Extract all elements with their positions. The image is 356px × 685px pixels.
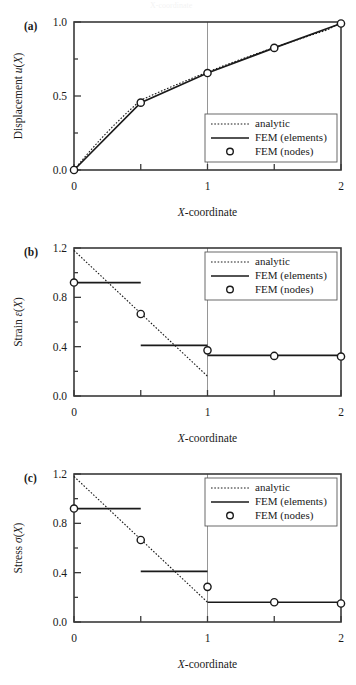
legend-label-elements: FEM (elements) [255,495,327,508]
y-tick-label: 1.2 [53,468,68,480]
legend: analyticFEM (elements)FEM (nodes) [205,252,337,300]
node-marker [70,166,77,173]
y-axis-title-prefix: Strain [12,316,24,346]
panel-tag: (c) [24,472,37,485]
y-axis-title-close: ) [12,297,25,301]
legend: analyticFEM (elements)FEM (nodes) [205,114,337,162]
legend-label-elements: FEM (elements) [255,131,327,144]
node-marker [204,347,211,354]
panel-a-plot: 0120.00.51.0(a)Displacement u(X)X-coordi… [0,0,356,225]
x-tick-label: 2 [338,632,344,644]
x-tick-label: 2 [338,180,344,192]
panel-tag: (b) [24,246,38,259]
y-axis-title-prefix: Displacement [12,73,25,139]
y-axis-title: Strain ε(X) [12,297,25,347]
y-axis-title-text: Displacement u(X) [12,53,25,140]
panel-b-strain: 0120.00.40.81.2(b)Strain ε(X)X-coordinat… [0,226,356,451]
x-axis-title: X-coordinate [177,432,237,444]
node-marker [137,536,144,543]
x-tick-label: 0 [71,632,77,644]
node-marker [271,599,278,606]
legend-label-nodes: FEM (nodes) [255,145,314,158]
node-marker [337,353,344,360]
legend-label-nodes: FEM (nodes) [255,509,314,522]
y-axis-title: Displacement u(X) [12,53,25,140]
y-tick-label: 0.0 [53,616,68,628]
y-axis-title: Stress σ(X) [12,522,25,573]
y-tick-label: 0.5 [53,90,68,102]
y-tick-label: 0.8 [53,291,68,303]
legend-label-elements: FEM (elements) [255,269,327,282]
node-marker [271,44,278,51]
y-tick-label: 0.4 [53,341,68,353]
x-axis-title: X-coordinate [177,658,237,670]
y-tick-label: 0.0 [53,164,68,176]
panel-a-displacement: 0120.00.51.0(a)Displacement u(X)X-coordi… [0,0,356,225]
y-axis-title-text: Strain ε(X) [12,297,25,347]
y-axis-title-close: ) [12,53,25,57]
y-tick-label: 1.2 [53,242,68,254]
panel-b-plot: 0120.00.40.81.2(b)Strain ε(X)X-coordinat… [0,226,356,451]
x-tick-label: 2 [338,406,344,418]
y-tick-label: 0.4 [53,567,68,579]
legend-swatch-nodes [227,512,234,519]
node-marker [137,99,144,106]
node-marker [70,279,77,286]
node-marker [70,505,77,512]
legend-swatch-nodes [227,148,234,155]
x-axis-title-rest: -coordinate [185,658,237,670]
x-tick-label: 0 [71,180,77,192]
legend-label-nodes: FEM (nodes) [255,283,314,296]
node-marker [204,583,211,590]
node-marker [337,20,344,27]
node-marker [204,69,211,76]
panel-c-plot: 0120.00.40.81.2(c)Stress σ(X)X-coordinat… [0,452,356,677]
x-tick-label: 1 [205,632,211,644]
y-axis-title-prefix: Stress [12,543,24,573]
node-marker [271,352,278,359]
panel-c-stress: 0120.00.40.81.2(c)Stress σ(X)X-coordinat… [0,452,356,677]
y-tick-label: 0.8 [53,517,68,529]
x-tick-label: 0 [71,406,77,418]
legend: analyticFEM (elements)FEM (nodes) [205,478,337,526]
y-axis-title-text: Stress σ(X) [12,522,25,573]
legend-label-analytic: analytic [255,481,290,493]
figure-fem-comparison: X-coordinate 0120.00.51.0(a)Displacement… [0,0,356,685]
legend-label-analytic: analytic [255,255,290,267]
panel-tag: (a) [24,20,38,33]
node-marker [137,310,144,317]
x-axis-title-rest: -coordinate [185,432,237,444]
y-axis-title-close: ) [12,522,25,526]
y-tick-label: 0.0 [53,390,68,402]
x-tick-label: 1 [205,406,211,418]
node-marker [337,600,344,607]
legend-label-analytic: analytic [255,117,290,129]
x-axis-title-rest: -coordinate [185,206,237,218]
y-tick-label: 1.0 [53,16,68,28]
x-tick-label: 1 [205,180,211,192]
x-axis-title: X-coordinate [177,206,237,218]
legend-swatch-nodes [227,286,234,293]
